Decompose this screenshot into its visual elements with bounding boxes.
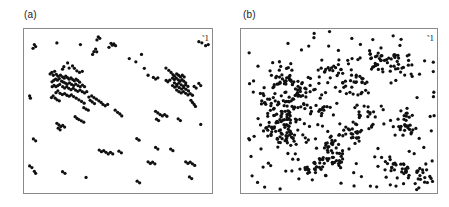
panel-a-corner-mark-value: 1 xyxy=(205,33,210,43)
panel-b-corner-mark-value: 1 xyxy=(430,33,435,43)
figure-container: (a) x1 (b) x1 xyxy=(0,0,449,207)
panel-b-scatter-points xyxy=(241,29,437,193)
panel-a-label: (a) xyxy=(24,10,37,20)
panel-a-corner-mark: x1 xyxy=(202,33,209,43)
panel-a-scatter-points xyxy=(24,29,212,193)
panel-b-corner-mark: x1 xyxy=(427,33,434,43)
panel-a-plot-frame: x1 xyxy=(23,28,213,194)
panel-b-plot-frame: x1 xyxy=(240,28,438,194)
panel-b-label: (b) xyxy=(243,10,256,20)
